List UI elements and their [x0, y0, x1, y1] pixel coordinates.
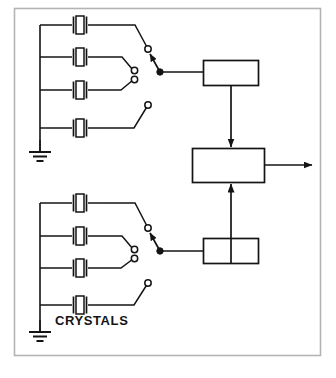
schematic-canvas: CRYSTALS: [0, 0, 336, 378]
block-oscillator-top[interactable]: [204, 61, 259, 86]
switch-contact-bottom-1[interactable]: [145, 225, 151, 231]
crystal-bottom-3[interactable]: [62, 259, 98, 277]
switch-lead-bottom-4: [98, 283, 148, 305]
crystal-top-3[interactable]: [62, 81, 98, 99]
ground-bottom: [29, 320, 51, 341]
switch-contact-top-1[interactable]: [145, 46, 151, 52]
switch-contact-bottom-2[interactable]: [131, 246, 137, 252]
switch-lead-top-3: [98, 80, 133, 90]
switch-contact-top-2[interactable]: [131, 67, 137, 73]
switch-lead-top-1: [98, 25, 148, 49]
crystal-top-1[interactable]: [62, 16, 98, 34]
crystal-bottom-1[interactable]: [62, 194, 98, 212]
switch-lead-top-2: [98, 57, 133, 70]
crystal-bank-top: [29, 16, 203, 161]
figure-border: [15, 9, 321, 356]
crystal-bottom-2[interactable]: [62, 227, 98, 245]
ground-top: [29, 140, 51, 161]
crystal-top-4[interactable]: [62, 119, 98, 137]
switch-lead-bottom-3: [98, 259, 133, 268]
switch-contact-bottom-3[interactable]: [131, 255, 137, 261]
switch-contact-top-3[interactable]: [131, 76, 137, 82]
switch-contact-bottom-4[interactable]: [145, 280, 151, 286]
schematic-figure: CRYSTALS: [0, 0, 336, 378]
switch-lead-bottom-2: [98, 236, 133, 249]
switch-lead-top-4: [98, 105, 148, 128]
crystal-top-2[interactable]: [62, 48, 98, 66]
switch-contact-top-4[interactable]: [145, 102, 151, 108]
switch-lead-bottom-1: [98, 203, 148, 228]
crystals-label: CRYSTALS: [55, 313, 128, 328]
crystal-bottom-4[interactable]: [62, 296, 98, 314]
block-mixer[interactable]: [193, 149, 265, 183]
